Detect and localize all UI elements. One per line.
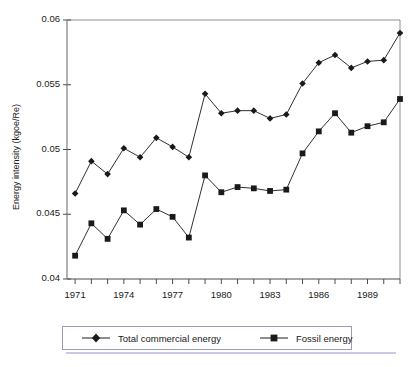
x-tick-label: 1980 — [196, 289, 246, 300]
data-point-square — [300, 150, 306, 156]
data-point-square — [348, 130, 354, 136]
series-line-1 — [75, 99, 400, 256]
x-tick-label: 1971 — [50, 289, 100, 300]
data-point-square — [153, 206, 159, 212]
data-point-diamond — [397, 30, 404, 37]
data-point-square — [251, 185, 257, 191]
caption-rule — [66, 352, 396, 354]
chart-legend: Total commercial energy Fossil energy — [62, 326, 352, 350]
data-point-square — [332, 110, 338, 116]
data-point-square — [72, 253, 78, 259]
data-point-square — [267, 188, 273, 194]
y-tick-label: 0.04 — [10, 272, 60, 283]
data-point-square — [105, 236, 111, 242]
data-point-diamond — [72, 190, 79, 197]
legend-label-fossil-energy: Fossil energy — [296, 333, 353, 344]
legend-item-fossil-energy: Fossil energy — [259, 332, 353, 344]
data-point-diamond — [283, 111, 290, 118]
data-point-square — [316, 128, 322, 134]
data-point-square — [137, 222, 143, 228]
data-point-diamond — [364, 58, 371, 65]
x-tick-label: 1989 — [343, 289, 393, 300]
x-tick-label: 1983 — [245, 289, 295, 300]
x-tick-label: 1977 — [148, 289, 198, 300]
data-point-diamond — [380, 57, 387, 64]
y-tick-label: 0.05 — [10, 143, 60, 154]
data-point-square — [283, 187, 289, 193]
data-point-square — [186, 235, 192, 241]
plot-area — [0, 0, 418, 367]
data-point-square — [397, 96, 403, 102]
x-tick-label: 1974 — [99, 289, 149, 300]
data-point-diamond — [186, 154, 193, 161]
y-tick-label: 0.06 — [10, 13, 60, 24]
y-tick-label: 0.045 — [10, 207, 60, 218]
data-point-square — [365, 123, 371, 129]
data-point-diamond — [169, 144, 176, 151]
data-point-square — [218, 189, 224, 195]
data-point-diamond — [267, 115, 274, 122]
y-tick-label: 0.055 — [10, 78, 60, 89]
chart-figure: Energy intensity (kgoe/Re) Total commerc… — [0, 0, 418, 367]
data-point-square — [121, 207, 127, 213]
data-point-square — [202, 173, 208, 179]
data-point-diamond — [251, 107, 258, 114]
data-point-square — [88, 220, 94, 226]
data-point-square — [381, 119, 387, 125]
data-point-diamond — [121, 145, 128, 152]
data-point-diamond — [234, 107, 241, 114]
data-point-square — [235, 184, 241, 190]
data-point-square — [170, 214, 176, 220]
legend-label-total-commercial-energy: Total commercial energy — [118, 333, 221, 344]
x-tick-label: 1986 — [294, 289, 344, 300]
square-marker-icon — [259, 332, 289, 344]
legend-item-total-commercial-energy: Total commercial energy — [81, 332, 221, 344]
diamond-marker-icon — [81, 332, 111, 344]
